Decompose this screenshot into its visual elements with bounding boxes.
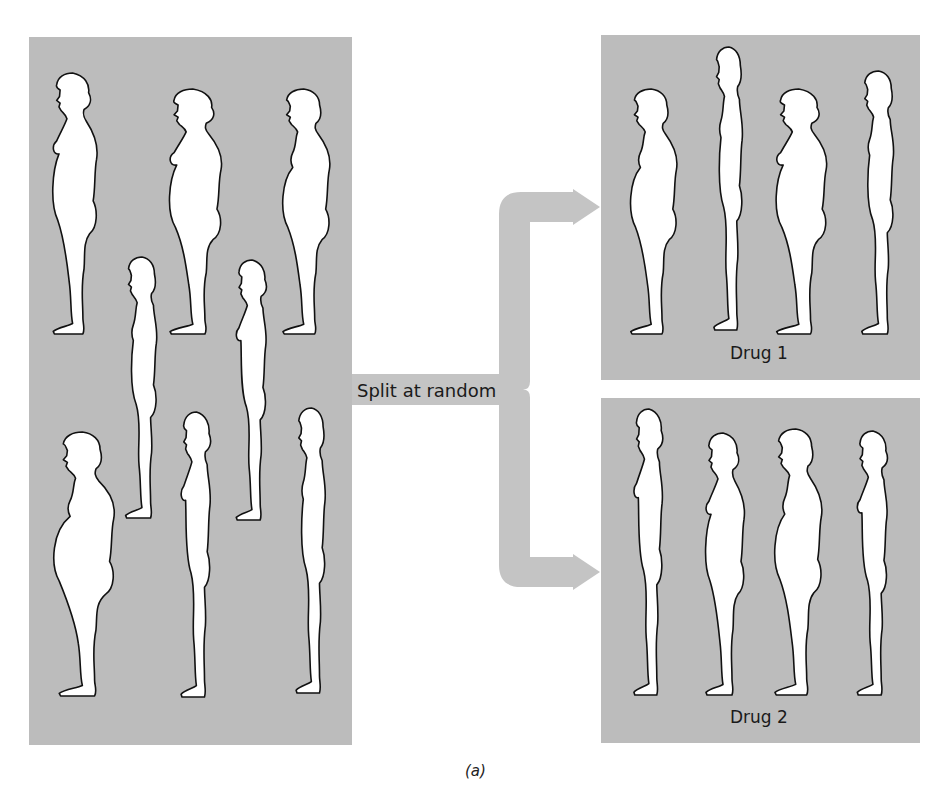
split-arrows xyxy=(499,189,600,590)
split-at-random-label: Split at random xyxy=(357,380,496,401)
drug-1-label: Drug 1 xyxy=(730,343,788,363)
figure-caption: (a) xyxy=(465,762,486,780)
figure-caption-text: (a) xyxy=(465,762,486,780)
drug-2-label: Drug 2 xyxy=(730,707,788,727)
